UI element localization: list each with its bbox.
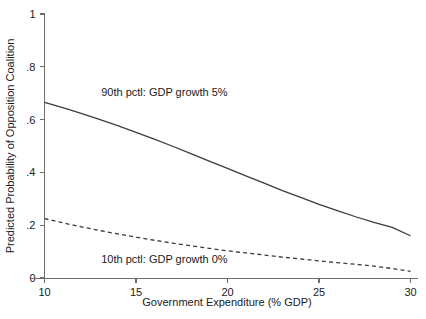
y-tick-label-3: .6	[26, 114, 35, 126]
chart-canvas: 0.2.4.6.81 1015202530 90th pctl: GDP gro…	[0, 0, 426, 319]
y-tick-label-group: 0.2.4.6.81	[26, 8, 35, 284]
y-tick-label-1: .2	[26, 219, 35, 231]
x-tick-label-1: 15	[130, 286, 142, 298]
x-tick-label-0: 10	[38, 286, 50, 298]
x-axis: 1015202530	[31, 278, 418, 298]
series-annotation-0: 90th pctl: GDP growth 5%	[101, 86, 228, 98]
y-tick-label-2: .4	[26, 166, 35, 178]
y-tick-label-5: 1	[29, 8, 35, 20]
series-annotation-1: 10th pctl: GDP growth 0%	[101, 253, 228, 265]
x-tick-label-4: 30	[404, 286, 416, 298]
x-axis-title: Government Expenditure (% GDP)	[142, 296, 311, 308]
series-group	[45, 102, 411, 271]
series-line-0	[45, 102, 411, 235]
y-axis: 0.2.4.6.81	[26, 8, 44, 284]
chart-figure: 0.2.4.6.81 1015202530 90th pctl: GDP gro…	[0, 0, 426, 319]
x-tick-label-3: 25	[313, 286, 325, 298]
y-axis-title: Predicted Probability of Opposition Coal…	[4, 39, 16, 254]
annotation-group: 90th pctl: GDP growth 5%10th pctl: GDP g…	[101, 86, 228, 266]
y-tick-label-4: .8	[26, 61, 35, 73]
y-tick-group	[40, 14, 45, 278]
